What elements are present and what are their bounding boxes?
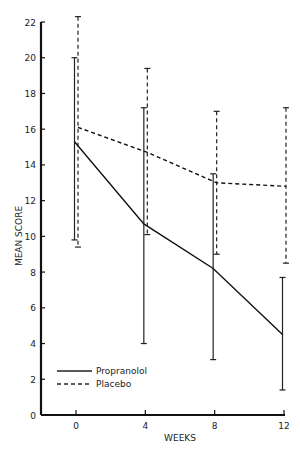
x-tick-label: 4 bbox=[142, 421, 148, 431]
y-tick-label: 12 bbox=[25, 196, 36, 206]
y-tick-label: 8 bbox=[30, 268, 36, 278]
y-tick-label: 4 bbox=[30, 339, 36, 349]
mean-line bbox=[75, 142, 283, 335]
y-axis-label: MEAN SCORE bbox=[14, 206, 24, 267]
legend-label-propranolol: Propranolol bbox=[96, 366, 147, 376]
y-tick-label: 14 bbox=[25, 160, 37, 170]
y-tick-label: 0 bbox=[30, 411, 36, 421]
axes: 024681012141618202204812 bbox=[25, 18, 290, 432]
legend-label-placebo: Placebo bbox=[96, 379, 132, 389]
y-tick-label: 18 bbox=[25, 89, 37, 99]
x-tick-label: 8 bbox=[212, 421, 218, 431]
x-tick-label: 0 bbox=[73, 421, 79, 431]
series-layer bbox=[72, 17, 290, 390]
x-axis-label: WEEKS bbox=[164, 433, 196, 443]
y-tick-label: 2 bbox=[30, 375, 36, 385]
y-tick-label: 10 bbox=[25, 232, 37, 242]
y-tick-label: 16 bbox=[25, 125, 37, 135]
mean-line bbox=[78, 127, 286, 186]
y-tick-label: 6 bbox=[30, 303, 36, 313]
chart-canvas: 024681012141618202204812 MEAN SCORE WEEK… bbox=[0, 0, 300, 449]
y-tick-label: 22 bbox=[25, 18, 36, 28]
legend: Propranolol Placebo bbox=[57, 366, 147, 389]
x-tick-label: 12 bbox=[278, 421, 289, 431]
series-placebo bbox=[75, 17, 289, 264]
series-propranolol bbox=[72, 58, 286, 390]
y-tick-label: 20 bbox=[25, 53, 37, 63]
